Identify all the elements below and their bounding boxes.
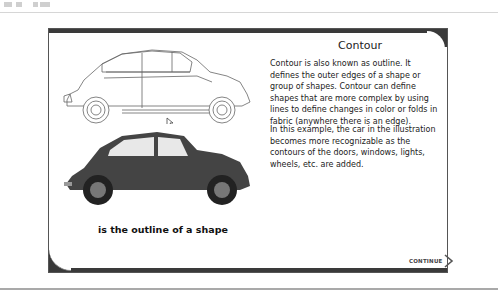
car-photo [62,128,262,210]
car-outline-drawing [62,42,262,124]
top-toolbar-strip [0,0,498,12]
slide-corner-bottom-left [49,250,71,272]
description-paragraph: Contour is also known as outline. It def… [270,58,440,127]
continue-button[interactable]: CONTINUE [409,254,454,268]
toolbar-mark [40,2,50,7]
example-paragraph: In this example, the car in the illustra… [270,124,440,170]
continue-label: CONTINUE [409,258,443,264]
bottom-divider [0,288,498,290]
top-divider [0,12,498,13]
slide-bottom-border [49,268,447,272]
toolbar-mark [4,2,12,7]
slide-top-border [49,29,447,33]
chevron-right-icon [444,254,454,268]
slide-title: Contour [270,39,450,52]
toolbar-mark [33,2,38,7]
caption-heading: is the outline of a shape [98,224,228,235]
toolbar-mark [16,2,22,7]
